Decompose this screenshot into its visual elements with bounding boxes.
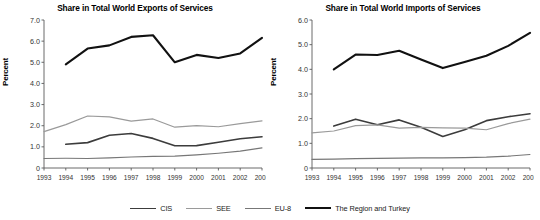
x-tick-label: 2003 bbox=[255, 174, 266, 181]
legend-label: EU-8 bbox=[275, 204, 291, 213]
legend-item-see[interactable]: SEE bbox=[186, 204, 231, 213]
y-tick-label: 4.0 bbox=[30, 79, 40, 88]
x-tick-label: 2002 bbox=[233, 174, 248, 181]
y-tick-label: 6.0 bbox=[298, 16, 308, 25]
chart-legend: CISSEEEU-8The Region and Turkey bbox=[0, 196, 540, 220]
x-tick-label: 2001 bbox=[479, 174, 494, 181]
y-tick-label: 0 bbox=[36, 164, 40, 173]
x-tick-label: 1993 bbox=[305, 174, 320, 181]
y-tick-label: 2.0 bbox=[298, 114, 308, 123]
x-tick-label: 1995 bbox=[348, 174, 363, 181]
chart-title-imports: Share in Total World Imports of Services bbox=[268, 3, 538, 13]
series-line-eu-8 bbox=[44, 148, 262, 159]
series-line-the-region-and-turkey bbox=[66, 35, 262, 64]
legend-item-the-region-and-turkey[interactable]: The Region and Turkey bbox=[305, 204, 410, 213]
y-tick-label: 5.0 bbox=[298, 40, 308, 49]
x-tick-label: 2001 bbox=[211, 174, 226, 181]
legend-swatch-icon bbox=[245, 208, 271, 209]
y-tick-label: 4.0 bbox=[298, 65, 308, 74]
x-tick-label: 2002 bbox=[501, 174, 516, 181]
legend-label: The Region and Turkey bbox=[335, 204, 410, 213]
x-tick-label: 1997 bbox=[124, 174, 139, 181]
chart-panel-exports: Share in Total World Exports of Services… bbox=[0, 0, 270, 195]
chart-title-exports: Share in Total World Exports of Services bbox=[0, 3, 270, 13]
line-chart-imports: 01.02.03.04.05.06.0199319941995199619971… bbox=[286, 16, 534, 194]
x-tick-label: 1994 bbox=[58, 174, 73, 181]
x-tick-label: 2003 bbox=[523, 174, 534, 181]
y-tick-label: 3.0 bbox=[298, 90, 308, 99]
x-tick-label: 2000 bbox=[189, 174, 204, 181]
y-axis-label-exports: Percent bbox=[1, 58, 15, 86]
y-tick-label: 1.0 bbox=[298, 139, 308, 148]
legend-swatch-icon bbox=[130, 208, 156, 209]
line-chart-exports: 01.02.03.04.05.06.07.0199319941995199619… bbox=[18, 16, 266, 194]
y-tick-label: 1.0 bbox=[30, 142, 40, 151]
y-tick-label: 0 bbox=[304, 164, 308, 173]
series-line-the-region-and-turkey bbox=[334, 33, 530, 70]
legend-item-eu-8[interactable]: EU-8 bbox=[245, 204, 291, 213]
y-axis-label-imports: Percent bbox=[269, 58, 283, 86]
plot-area-imports: 01.02.03.04.05.06.0199319941995199619971… bbox=[286, 16, 534, 194]
x-tick-label: 1998 bbox=[414, 174, 429, 181]
x-tick-label: 1994 bbox=[326, 174, 341, 181]
y-tick-label: 2.0 bbox=[30, 121, 40, 130]
series-line-see bbox=[312, 119, 530, 133]
figure-container: Share in Total World Exports of Services… bbox=[0, 0, 540, 220]
x-tick-label: 1996 bbox=[370, 174, 385, 181]
legend-label: CIS bbox=[160, 204, 172, 213]
legend-swatch-icon bbox=[305, 207, 331, 209]
x-tick-label: 1993 bbox=[37, 174, 52, 181]
x-tick-label: 1999 bbox=[167, 174, 182, 181]
x-tick-label: 1999 bbox=[435, 174, 450, 181]
series-line-see bbox=[44, 116, 262, 132]
legend-item-cis[interactable]: CIS bbox=[130, 204, 172, 213]
x-tick-label: 1996 bbox=[102, 174, 117, 181]
series-line-eu-8 bbox=[312, 154, 530, 159]
y-tick-label: 5.0 bbox=[30, 58, 40, 67]
x-tick-label: 1998 bbox=[146, 174, 161, 181]
y-tick-label: 3.0 bbox=[30, 100, 40, 109]
x-tick-label: 2000 bbox=[457, 174, 472, 181]
chart-panel-imports: Share in Total World Imports of Services… bbox=[268, 0, 538, 195]
y-tick-label: 7.0 bbox=[30, 16, 40, 25]
legend-swatch-icon bbox=[186, 208, 212, 209]
series-line-cis bbox=[66, 134, 262, 146]
legend-label: SEE bbox=[216, 204, 231, 213]
y-tick-label: 6.0 bbox=[30, 37, 40, 46]
x-tick-label: 1995 bbox=[80, 174, 95, 181]
x-tick-label: 1997 bbox=[392, 174, 407, 181]
plot-area-exports: 01.02.03.04.05.06.07.0199319941995199619… bbox=[18, 16, 266, 194]
